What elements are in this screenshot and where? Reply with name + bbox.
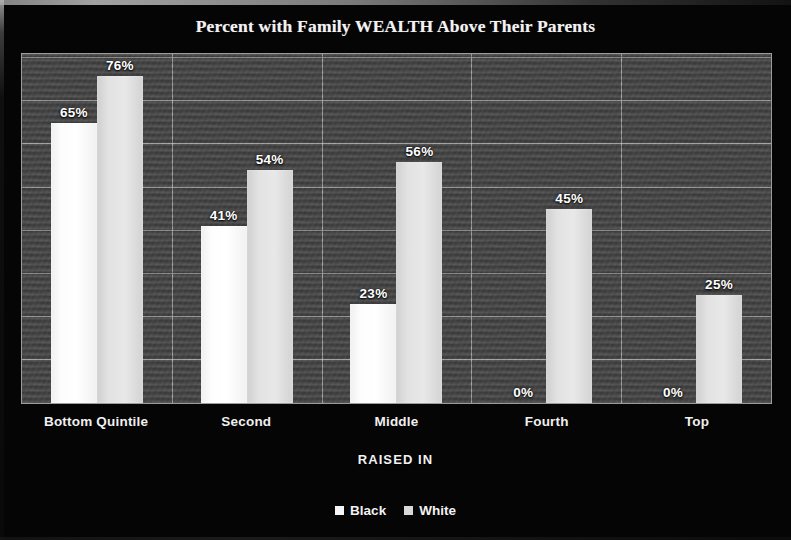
bar-white-top[interactable]: 25% xyxy=(696,54,742,403)
bar-value-label: 25% xyxy=(705,277,733,292)
bar-black-middle[interactable]: 23% xyxy=(350,54,396,403)
bar-rect xyxy=(51,123,97,403)
bar-value-label: 0% xyxy=(513,385,533,400)
bar-black-top[interactable]: 0% xyxy=(650,54,696,403)
category-label: Fourth xyxy=(472,414,622,429)
bar-white-fourth[interactable]: 45% xyxy=(546,54,592,403)
category-label: Top xyxy=(622,414,772,429)
bar-group: 23%56% xyxy=(322,54,472,403)
bar-rect xyxy=(350,304,396,403)
bar-rect xyxy=(97,76,143,403)
bar-value-label: 23% xyxy=(360,286,388,301)
chart-title: Percent with Family WEALTH Above Their P… xyxy=(0,16,791,37)
category-label: Bottom Quintile xyxy=(21,414,171,429)
bar-white-bottom-quintile[interactable]: 76% xyxy=(97,54,143,403)
legend-label: Black xyxy=(350,503,386,518)
legend-item-black[interactable]: Black xyxy=(335,503,386,518)
bar-rect xyxy=(546,209,592,403)
category-label: Second xyxy=(171,414,321,429)
bar-group: 41%54% xyxy=(172,54,322,403)
category-label: Middle xyxy=(321,414,471,429)
legend-label: White xyxy=(419,503,456,518)
bar-value-label: 41% xyxy=(210,208,238,223)
bar-rect xyxy=(247,170,293,403)
bar-white-middle[interactable]: 56% xyxy=(396,54,442,403)
bar-rect xyxy=(201,226,247,403)
scan-artifact-top xyxy=(0,0,791,5)
legend-item-white[interactable]: White xyxy=(404,503,456,518)
bar-value-label: 0% xyxy=(663,385,683,400)
chart-legend: BlackWhite xyxy=(0,503,791,518)
bar-group: 0%45% xyxy=(471,54,621,403)
bar-black-fourth[interactable]: 0% xyxy=(500,54,546,403)
bar-value-label: 76% xyxy=(106,58,134,73)
bar-black-bottom-quintile[interactable]: 65% xyxy=(51,54,97,403)
bar-white-second[interactable]: 54% xyxy=(247,54,293,403)
bar-group: 65%76% xyxy=(22,54,172,403)
chart-figure: Percent with Family WEALTH Above Their P… xyxy=(0,0,791,540)
plot-area: 65%76%41%54%23%56%0%45%0%25% xyxy=(21,53,772,404)
bar-group: 0%25% xyxy=(621,54,771,403)
bar-value-label: 45% xyxy=(555,191,583,206)
bar-black-second[interactable]: 41% xyxy=(201,54,247,403)
legend-swatch-icon xyxy=(404,506,413,515)
category-axis: Bottom QuintileSecondMiddleFourthTop xyxy=(21,414,772,429)
bar-rect xyxy=(396,162,442,403)
bar-value-label: 56% xyxy=(406,144,434,159)
legend-swatch-icon xyxy=(335,506,344,515)
x-axis-title: RAISED IN xyxy=(0,452,791,467)
bar-groups: 65%76%41%54%23%56%0%45%0%25% xyxy=(22,54,771,403)
bar-rect xyxy=(696,295,742,403)
bar-value-label: 54% xyxy=(256,152,284,167)
bar-value-label: 65% xyxy=(60,105,88,120)
